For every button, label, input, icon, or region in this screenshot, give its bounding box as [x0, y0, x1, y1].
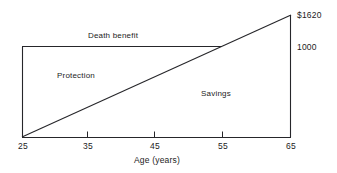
y-label-1620: $1620	[297, 10, 322, 20]
x-tick-label-45: 45	[150, 141, 160, 151]
death-benefit-label: Death benefit	[88, 31, 138, 41]
y-label-1000: 1000	[297, 42, 317, 52]
insurance-cash-value-chart: Death benefit Protection Savings $1620 1…	[0, 0, 337, 173]
x-tick-label-35: 35	[83, 141, 93, 151]
protection-label: Protection	[57, 71, 95, 81]
savings-label: Savings	[201, 89, 231, 99]
x-axis-title: Age (years)	[134, 155, 180, 165]
x-tick-label-65: 65	[286, 141, 296, 151]
x-tick-label-25: 25	[18, 141, 28, 151]
x-tick-label-55: 55	[218, 141, 228, 151]
